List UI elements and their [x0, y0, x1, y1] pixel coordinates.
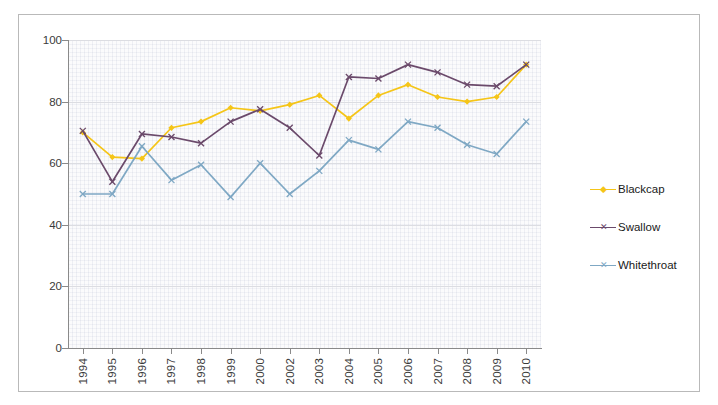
legend-swatch-swallow-icon: ✕ — [590, 223, 616, 232]
series-line-swallow — [83, 65, 526, 182]
chart-screenshot: 100806040200 199419951996199719981999200… — [0, 0, 718, 405]
data-point-marker — [257, 160, 263, 166]
legend-label: Blackcap — [618, 183, 665, 195]
data-point-marker — [168, 177, 174, 183]
legend-item-swallow[interactable]: ✕Swallow — [590, 208, 695, 246]
series-line-whitethroat — [83, 122, 526, 197]
legend-swatch-blackcap-icon: ◆ — [590, 185, 616, 194]
legend-label: Whitethroat — [618, 259, 677, 271]
data-point-marker — [139, 143, 145, 149]
data-point-marker — [523, 119, 529, 125]
data-point-marker — [109, 179, 115, 185]
data-point-marker — [228, 194, 234, 200]
data-point-marker — [287, 191, 293, 197]
series-blackcap — [80, 62, 530, 162]
series-swallow — [80, 62, 529, 185]
legend-item-whitethroat[interactable]: ✕Whitethroat — [590, 246, 695, 284]
series-whitethroat — [80, 119, 529, 200]
legend-swatch-whitethroat-icon: ✕ — [590, 261, 616, 270]
data-point-marker — [464, 99, 470, 105]
data-point-marker — [227, 105, 233, 111]
data-point-marker — [434, 94, 440, 100]
legend-label: Swallow — [618, 221, 660, 233]
data-point-marker — [198, 119, 204, 125]
data-point-marker — [287, 125, 293, 131]
data-point-marker — [405, 82, 411, 88]
data-point-marker — [198, 162, 204, 168]
data-point-marker — [316, 168, 322, 174]
chart-legend: ◆Blackcap✕Swallow✕Whitethroat — [590, 170, 695, 284]
data-point-marker — [287, 102, 293, 108]
series-line-blackcap — [83, 65, 526, 159]
legend-item-blackcap[interactable]: ◆Blackcap — [590, 170, 695, 208]
